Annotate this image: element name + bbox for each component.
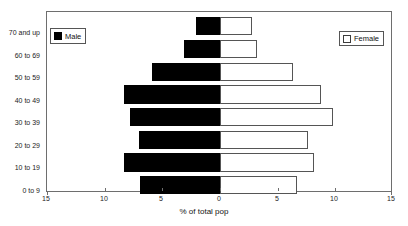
x-axis-tick-label-2: 5 — [148, 194, 174, 203]
bar-female-20-to-29 — [220, 131, 308, 149]
y-axis-label-50-to-59: 50 to 59 — [0, 74, 40, 82]
x-axis-tick-label-3: 0 — [206, 194, 232, 203]
x-axis-tick-labels: 15 10 5 0 5 10 15 — [0, 194, 408, 206]
bar-female-50-to-59 — [220, 63, 293, 81]
y-axis-labels: 70 and up 60 to 69 50 to 59 40 to 49 30 … — [0, 11, 43, 192]
bar-male-0-to-9 — [140, 176, 220, 194]
y-axis-label-20-to-29: 20 to 29 — [0, 142, 40, 150]
x-axis-tick-label-5: 10 — [321, 194, 347, 203]
population-pyramid-chart: 70 and up 60 to 69 50 to 59 40 to 49 30 … — [0, 0, 408, 226]
y-axis-label-70-and-up: 70 and up — [0, 29, 40, 37]
x-axis-title-text: % of total pop — [180, 207, 229, 216]
legend-male-swatch-icon — [54, 32, 62, 40]
bar-male-10-to-19 — [124, 153, 220, 172]
legend-female-swatch-icon — [343, 35, 351, 43]
bar-male-20-to-29 — [139, 131, 220, 149]
legend-male-label: Male — [65, 32, 81, 41]
x-axis-tick-label-0: 15 — [33, 194, 59, 203]
bar-male-70-and-up — [196, 17, 220, 35]
bar-male-50-to-59 — [152, 63, 220, 81]
bar-male-40-to-49 — [124, 85, 220, 104]
x-tick-plus-5 — [278, 188, 279, 191]
bar-female-60-to-69 — [220, 40, 257, 58]
bar-female-0-to-9 — [220, 176, 297, 194]
x-axis-tick-label-1: 10 — [91, 194, 117, 203]
bar-female-70-and-up — [220, 17, 252, 35]
y-axis-label-30-to-39: 30 to 39 — [0, 119, 40, 127]
x-axis-tick-label-4: 5 — [264, 194, 290, 203]
y-axis-label-40-to-49: 40 to 49 — [0, 97, 40, 105]
bar-male-60-to-69 — [184, 40, 220, 58]
x-tick-zero — [220, 188, 221, 191]
legend-female: Female — [339, 31, 384, 46]
legend-male: Male — [50, 28, 86, 44]
bar-male-30-to-39 — [130, 108, 220, 126]
x-axis-tick-label-6: 15 — [378, 194, 404, 203]
x-tick-minus-10 — [105, 188, 106, 191]
bar-female-10-to-19 — [220, 153, 314, 172]
bar-female-30-to-39 — [220, 108, 333, 126]
y-axis-label-60-to-69: 60 to 69 — [0, 52, 40, 60]
x-tick-plus-10 — [335, 188, 336, 191]
legend-female-label: Female — [354, 34, 379, 43]
y-axis-label-10-to-19: 10 to 19 — [0, 164, 40, 172]
bar-female-40-to-49 — [220, 85, 321, 104]
x-tick-minus-5 — [162, 188, 163, 191]
x-axis-title: % of total pop — [0, 207, 408, 216]
